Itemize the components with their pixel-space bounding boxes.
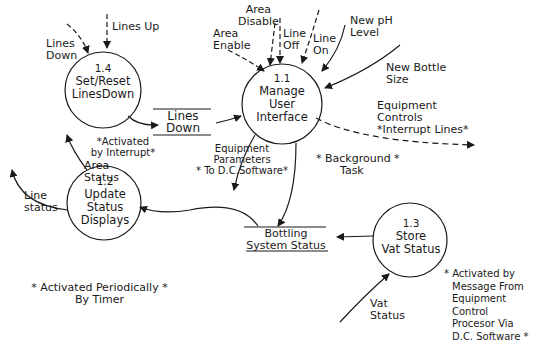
flow-label-line2: Status xyxy=(370,310,405,322)
note-line3: Equipment xyxy=(444,293,528,306)
store-lines-down[interactable]: Lines Down xyxy=(158,110,208,134)
note-line2: Task xyxy=(316,165,400,177)
flow-line-on: Line On xyxy=(313,33,336,57)
note-line5: Procesor Via xyxy=(444,318,528,331)
flow-label-line2: Down xyxy=(46,50,77,62)
note-activated-by-message: * Activated by Message From Equipment Co… xyxy=(444,268,528,343)
process-1-3[interactable]: 1.3 Store Vat Status xyxy=(375,217,447,256)
flow-label-line2: Off xyxy=(283,40,306,52)
flow-label-line2: status xyxy=(24,202,58,214)
flow-label-line2: On xyxy=(313,45,336,57)
flow-label-line2: Disable xyxy=(238,16,279,28)
process-name-line2: LinesDown xyxy=(68,88,138,101)
store-label-line2: System Status xyxy=(244,240,328,252)
flow-area-status: Area Status xyxy=(84,160,119,184)
note-line1: * Activated by xyxy=(444,268,528,281)
store-bottling-system-status[interactable]: Bottling System Status xyxy=(244,228,328,252)
note-line4: Control xyxy=(444,306,528,319)
flow-label-line2: Level xyxy=(350,27,393,39)
note-activated-by-interrupt: *Activated by Interrupt* xyxy=(88,136,158,158)
process-1-4[interactable]: 1.4 Set/Reset LinesDown xyxy=(68,62,138,101)
flow-new-bottle-size: New Bottle Size xyxy=(386,62,446,86)
store-label-line2: Down xyxy=(158,122,208,134)
note-line2: Message From xyxy=(444,281,528,294)
note-line2: By Timer xyxy=(22,294,177,306)
flow-label-line2: Parameters xyxy=(192,154,292,165)
asterisk-icon: * xyxy=(316,152,322,165)
note-activated-periodically: * Activated Periodically * By Timer xyxy=(22,282,177,306)
process-name-line2: Vat Status xyxy=(375,243,447,256)
flow-label-line2: Status xyxy=(84,172,119,184)
process-1-1[interactable]: 1.1 Manage User Interface xyxy=(244,72,320,124)
flow-equipment-parameters: Equipment Parameters * To D.C.Software* xyxy=(192,143,292,176)
flow-area-enable: Area Enable xyxy=(213,28,250,52)
note-background-task: * Background * Task xyxy=(316,153,400,177)
flow-line-off: Line Off xyxy=(283,28,306,52)
flow-label-line2: Enable xyxy=(213,40,250,52)
flow-new-ph-level: New pH Level xyxy=(350,15,393,39)
flow-lines-up: Lines Up xyxy=(112,21,159,33)
process-name-line3: Interface xyxy=(244,111,320,124)
flow-area-disable: Area Disable xyxy=(238,4,279,28)
flow-label-line3: * To D.C.Software* xyxy=(192,165,292,176)
flow-equipment-controls: Equipment Controls *Interrupt Lines* xyxy=(377,100,469,136)
note-line6: D.C. Software * xyxy=(444,331,528,344)
note-line2: by Interrupt* xyxy=(88,147,158,158)
process-name-line3: Displays xyxy=(70,214,140,227)
flow-label-line2: Size xyxy=(386,74,446,86)
flow-line-status: Line status xyxy=(24,190,58,214)
flow-label-line3: *Interrupt Lines* xyxy=(377,124,469,136)
flow-label-line1: Equipment xyxy=(192,143,292,154)
flow-lines-down: Lines Down xyxy=(46,38,77,62)
note-line1: *Activated xyxy=(88,136,158,147)
flow-vat-status: Vat Status xyxy=(370,298,405,322)
